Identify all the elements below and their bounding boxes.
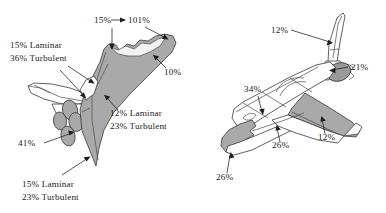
label-wing-edge-pct: 12% xyxy=(318,132,335,142)
label-engine-pct: 41% xyxy=(18,138,35,148)
label-bottom-laminar: 15% Laminar xyxy=(22,179,74,189)
label-wing-laminar: 12% Laminar xyxy=(110,108,162,118)
label-upper-left-laminar: 15% Laminar xyxy=(10,40,62,50)
shuttle-annotation-figure: 15% 101% 10% 15% Laminar 36% Turbulent 4… xyxy=(0,0,386,213)
label-wing-turbulent: 23% Turbulent xyxy=(110,121,167,131)
vertical-tail xyxy=(328,13,345,62)
label-wing-tip-pct: 10% xyxy=(164,67,181,77)
label-upper-left-turbulent: 36% Turbulent xyxy=(10,53,67,63)
label-tail-pct: 12% xyxy=(271,25,288,35)
label-omspod-pct: 21% xyxy=(351,62,368,72)
figure-container: 15% 101% 10% 15% Laminar 36% Turbulent 4… xyxy=(0,0,386,213)
leader-bottom-laminar xyxy=(62,158,88,175)
leader-tail-12 xyxy=(291,30,330,42)
label-fuselage-pct: 34% xyxy=(244,84,261,94)
planform-view: 15% 101% 10% 15% Laminar 36% Turbulent 4… xyxy=(10,15,181,202)
label-bottom-turbulent: 23% Turbulent xyxy=(22,192,79,202)
arrowhead-bottom-laminar xyxy=(84,156,91,161)
arrowhead-15-to-101 xyxy=(120,17,126,22)
label-nose-pct: 26% xyxy=(216,172,233,182)
leader-upper-left-a xyxy=(68,66,92,82)
perspective-view: 12% 21% 34% 12% 26% 26% xyxy=(216,13,368,182)
label-top-left-pct: 15% xyxy=(94,15,111,25)
label-top-right-pct: 101% xyxy=(128,15,150,25)
label-wing-root-pct: 26% xyxy=(272,140,289,150)
